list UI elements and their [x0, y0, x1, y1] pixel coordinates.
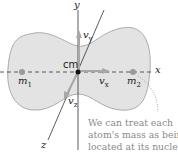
- vx-label-sub: x: [105, 81, 109, 89]
- m2-label: m2: [127, 76, 141, 89]
- vy-label: vy: [83, 30, 93, 43]
- vz-label-sub: z: [74, 101, 78, 109]
- caption-line-2: atom's mass as being: [88, 129, 178, 141]
- vz-label: vz: [68, 96, 77, 109]
- vy-arrowhead: [76, 30, 82, 38]
- z-axis-label: z: [41, 140, 46, 150]
- caption-line-1: We can treat each: [88, 117, 178, 129]
- y-axis-label: y: [74, 0, 80, 10]
- caption-line-3: located at its nucleus.: [88, 141, 178, 153]
- cm-point: [76, 70, 81, 75]
- x-axis-label: x: [155, 65, 161, 75]
- vx-label: vx: [99, 76, 109, 89]
- m1-label-sub: 1: [27, 81, 31, 89]
- m1-label: m1: [18, 76, 32, 89]
- cm-label: cm: [63, 60, 78, 70]
- caption: We can treat each atom's mass as being l…: [88, 117, 178, 153]
- m2-label-sub: 2: [136, 81, 140, 89]
- vy-label-sub: y: [89, 35, 93, 43]
- molecule-diagram: y x z cm m1 m2 vx vy vz We can treat eac…: [0, 0, 178, 155]
